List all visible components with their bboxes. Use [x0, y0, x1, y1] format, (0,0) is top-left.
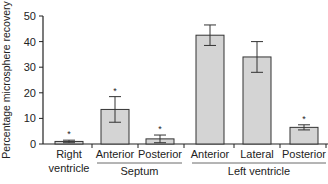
x-category-label: Anterior: [191, 148, 230, 160]
significance-marker: *: [67, 129, 71, 139]
y-tick-label: 0: [30, 138, 36, 150]
x-category-label-line2: ventricle: [49, 162, 90, 174]
group-label: Left ventricle: [228, 165, 290, 177]
y-tick-label: 20: [24, 87, 36, 99]
significance-marker: *: [158, 124, 162, 134]
x-category-label: Anterior: [96, 148, 135, 160]
bar-chart: Percentage microsphere recovery010203040…: [0, 0, 328, 184]
bar: [196, 35, 224, 144]
significance-marker: *: [302, 114, 306, 124]
y-tick-label: 50: [24, 10, 36, 22]
x-category-label: Posterior: [282, 148, 326, 160]
x-category-label: Lateral: [240, 148, 274, 160]
significance-marker: *: [113, 86, 117, 96]
x-category-label: Right: [56, 148, 82, 160]
x-category-label: Posterior: [138, 148, 182, 160]
y-tick-label: 30: [24, 61, 36, 73]
y-axis-label: Percentage microsphere recovery: [0, 0, 12, 158]
y-tick-label: 40: [24, 36, 36, 48]
y-tick-label: 10: [24, 112, 36, 124]
group-label: Septum: [121, 165, 159, 177]
chart-canvas: Percentage microsphere recovery010203040…: [0, 0, 328, 184]
